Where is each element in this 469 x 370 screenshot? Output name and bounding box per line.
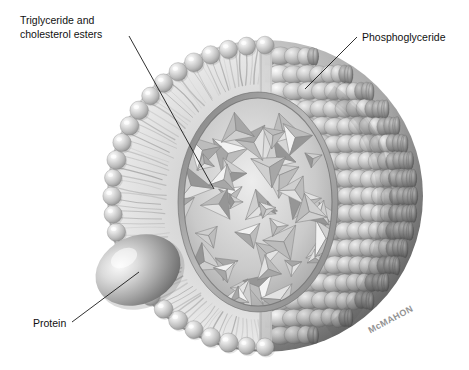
lipoprotein-figure: Triglyceride and cholesterol esters Phos… (0, 0, 469, 370)
triglyceride-label-line1: Triglyceride and (20, 14, 94, 26)
protein-label: Protein (33, 317, 66, 329)
lipoprotein-illustration: Triglyceride and cholesterol esters Phos… (0, 0, 469, 370)
phosphoglyceride-label: Phosphoglyceride (362, 31, 446, 43)
triglyceride-label-line2: cholesterol esters (20, 28, 102, 40)
